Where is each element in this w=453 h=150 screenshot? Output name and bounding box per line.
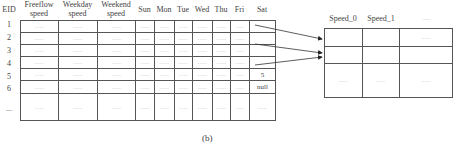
arrow-row4-to-speed-row1 — [255, 57, 322, 65]
arrow-row1-to-speed-row0 — [255, 25, 322, 39]
arrow-row3-to-speed-row1 — [255, 44, 322, 53]
figure-caption: (b) — [202, 133, 213, 143]
mapping-arrows — [0, 0, 453, 150]
